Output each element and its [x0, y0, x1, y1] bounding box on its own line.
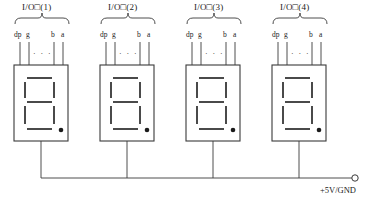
- pin-label-dp-2: dp: [100, 31, 108, 39]
- pin-ellipsis-4: · · ·: [291, 50, 310, 58]
- supply-label: +5V/GND: [320, 186, 356, 195]
- pin-label-b-1: b: [51, 31, 55, 39]
- decimal-point-2: [145, 128, 150, 133]
- pin-label-b-4: b: [309, 31, 313, 39]
- seven-segment-2: [111, 78, 140, 129]
- pin-label-dp-3: dp: [186, 31, 194, 39]
- decimal-point-3: [231, 128, 236, 133]
- seven-segment-3: [197, 78, 226, 129]
- pin-label-a-2: a: [147, 31, 150, 39]
- seven-segment-1: [25, 78, 54, 129]
- pin-ellipsis-1: · · ·: [33, 50, 52, 58]
- pin-label-a-4: a: [319, 31, 322, 39]
- pin-label-a-1: a: [61, 31, 64, 39]
- module-title-1: I/O□(1): [22, 3, 51, 12]
- pin-label-b-3: b: [223, 31, 227, 39]
- pin-label-g-3: g: [198, 31, 202, 39]
- pin-group-brace-2: [101, 13, 155, 24]
- pin-group-brace-3: [187, 13, 241, 24]
- module-title-2: I/O□(2): [108, 3, 137, 12]
- pin-label-b-2: b: [137, 31, 141, 39]
- module-title-4: I/O□(4): [280, 3, 309, 12]
- pin-ellipsis-3: · · ·: [205, 50, 224, 58]
- seven-segment-4: [283, 78, 312, 129]
- pin-group-brace-4: [273, 13, 327, 24]
- decimal-point-1: [59, 128, 64, 133]
- pin-label-g-1: g: [26, 31, 30, 39]
- pin-group-brace-1: [15, 13, 69, 24]
- decimal-point-4: [317, 128, 322, 133]
- pin-label-dp-1: dp: [14, 31, 22, 39]
- supply-terminal[interactable]: [352, 175, 358, 181]
- pin-ellipsis-2: · · ·: [119, 50, 138, 58]
- pin-label-dp-4: dp: [272, 31, 280, 39]
- pin-label-g-4: g: [284, 31, 288, 39]
- module-title-3: I/O□(3): [194, 3, 223, 12]
- pin-label-a-3: a: [233, 31, 236, 39]
- pin-label-g-2: g: [112, 31, 116, 39]
